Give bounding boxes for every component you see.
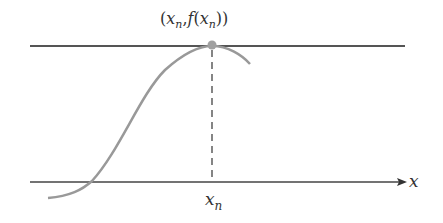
- x-axis-label: x: [409, 171, 419, 191]
- xn-tick-label: xn: [205, 189, 222, 213]
- newton-method-diagram: (xn,f(xn)) xn x: [0, 0, 443, 223]
- critical-point: [208, 41, 217, 50]
- point-label: (xn,f(xn)): [160, 9, 228, 31]
- function-curve: [48, 46, 250, 198]
